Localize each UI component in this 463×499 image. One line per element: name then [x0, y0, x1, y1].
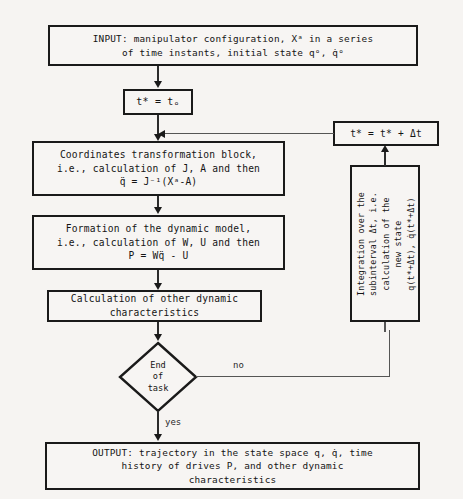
node-output-line-1: OUTPUT: trajectory in the state space q,…: [92, 446, 373, 460]
node-dynamic-model-formation: Formation of the dynamic model, i.e., ca…: [32, 215, 285, 270]
edge-label-no: no: [233, 360, 244, 370]
node-initialize-time-line-1: t* = tₒ: [136, 95, 180, 110]
node-integration-line-4: new state: [391, 220, 403, 267]
edge-label-yes: yes: [165, 417, 181, 427]
edge-timestep-feedback: [165, 133, 334, 134]
node-integration-line-1: Integration over the: [354, 192, 366, 296]
node-decision-line-2: of: [153, 371, 163, 383]
node-other-dynamic-characteristics: Calculation of other dynamic characteris…: [47, 290, 262, 322]
arrowhead-decision-yes-to-output: [154, 434, 162, 441]
node-input-line-1: INPUT: manipulator configuration, Xᵃ in …: [93, 32, 374, 46]
arrowhead-input-to-init: [154, 81, 162, 88]
node-coordinates-transformation-line-2: i.e., calculation of J, A and then: [57, 162, 260, 176]
node-dynamic-model-formation-line-3: P = Wq̈ - U: [129, 249, 189, 263]
edge-into-integration: [384, 322, 385, 332]
node-decision-line-3: task: [148, 383, 169, 395]
edge-decision-no-horizontal: [196, 376, 390, 377]
edge-othercalc-to-decision: [157, 322, 158, 334]
node-output-line-3: characteristics: [189, 473, 277, 487]
node-integration-line-5: q(t*+Δt), q̇(t*+Δt): [404, 197, 416, 291]
node-other-dynamic-characteristics-line-1: Calculation of other dynamic: [71, 292, 238, 306]
flowchart-canvas: INPUT: manipulator configuration, Xᵃ in …: [0, 0, 463, 499]
arrowhead-integration-to-timestep: [381, 145, 389, 152]
edge-dynmodel-to-othercalc: [157, 270, 158, 283]
node-initialize-time: t* = tₒ: [123, 89, 193, 115]
arrowhead-timestep-feedback: [158, 130, 165, 138]
arrowhead-dynmodel-to-othercalc: [154, 283, 162, 290]
node-input: INPUT: manipulator configuration, Xᵃ in …: [48, 25, 418, 66]
node-coordinates-transformation-line-3: q̈ = J⁻¹(Xᵃ-A): [120, 175, 198, 189]
node-other-dynamic-characteristics-line-2: characteristics: [110, 306, 200, 320]
arrowhead-coords-to-dynmodel: [154, 207, 162, 214]
node-integration-line-3: calculation of the: [379, 197, 391, 291]
arrowhead-othercalc-to-decision: [154, 334, 162, 341]
node-decision-label: End of task: [118, 341, 198, 413]
edge-decision-no-vertical: [389, 330, 390, 377]
node-dynamic-model-formation-line-1: Formation of the dynamic model,: [66, 222, 251, 236]
node-input-line-2: of time instants, initial state qᵒ, q̇ᵒ: [122, 46, 344, 60]
edge-decision-yes-to-output: [157, 412, 158, 434]
node-time-increment-line-1: t* = t* + Δt: [350, 127, 422, 141]
node-time-increment: t* = t* + Δt: [333, 121, 439, 146]
node-dynamic-model-formation-line-2: i.e., calculation of W, U and then: [57, 236, 260, 250]
node-decision-end-of-task: End of task: [118, 341, 198, 413]
node-integration-rotated-text: Integration over the subinterval Δt, i.e…: [350, 165, 420, 322]
node-decision-line-1: End: [150, 360, 166, 372]
node-coordinates-transformation: Coordinates transformation block, i.e., …: [32, 141, 285, 196]
node-coordinates-transformation-line-1: Coordinates transformation block,: [60, 148, 257, 162]
node-output-line-2: history of drives P, and other dynamic: [121, 459, 343, 473]
edge-input-to-init: [157, 66, 158, 82]
node-integration-line-2: subinterval Δt, i.e.: [366, 192, 378, 296]
node-output: OUTPUT: trajectory in the state space q,…: [45, 442, 420, 490]
node-integration-subinterval: Integration over the subinterval Δt, i.e…: [350, 165, 420, 322]
